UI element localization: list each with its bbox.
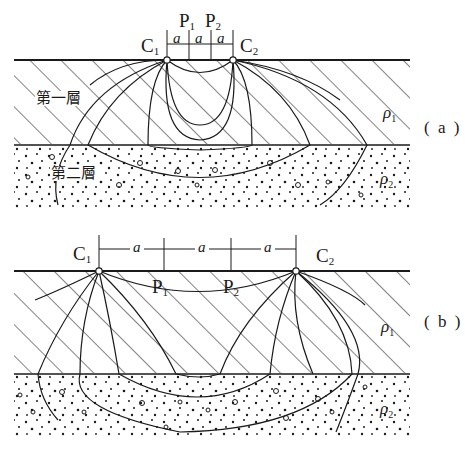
electrode-c2 xyxy=(230,57,236,63)
panel-a xyxy=(14,30,410,209)
layer-1-name: 第一層 xyxy=(35,91,82,106)
rho-2-a: ρ2 xyxy=(380,170,393,190)
label-c2-b: C2 xyxy=(316,246,334,267)
label-c2-a: C2 xyxy=(240,36,258,57)
panel-label-b: ( b ) xyxy=(424,313,462,330)
panel-label-a: ( a ) xyxy=(424,119,461,136)
spacing-a-3: a xyxy=(217,31,225,46)
rho-1-b: ρ1 xyxy=(381,318,394,338)
rho-2-b: ρ2 xyxy=(380,400,393,420)
spacing-a-2: a xyxy=(195,31,203,46)
label-p1-a: P1 xyxy=(179,11,195,32)
electrode-c1 xyxy=(164,57,170,63)
panel-b xyxy=(14,235,410,436)
label-p2-a: P2 xyxy=(205,11,221,32)
spacing-b-1: a xyxy=(130,240,144,255)
label-p2-b: P2 xyxy=(223,277,239,298)
label-p1-b: P1 xyxy=(152,277,168,298)
label-c1-b: C1 xyxy=(73,244,91,265)
spacing-b-2: a xyxy=(195,240,209,255)
rho-1-a: ρ1 xyxy=(383,104,396,124)
resistivity-survey-diagram xyxy=(0,0,469,463)
spacing-a-1: a xyxy=(173,31,181,46)
layer-2-name: 第二層 xyxy=(50,166,97,181)
label-c1-a: C1 xyxy=(141,36,159,57)
spacing-b-3: a xyxy=(261,240,275,255)
electrode-c1 xyxy=(96,268,102,274)
layer-2-dots xyxy=(14,374,410,436)
electrode-c2 xyxy=(293,268,299,274)
